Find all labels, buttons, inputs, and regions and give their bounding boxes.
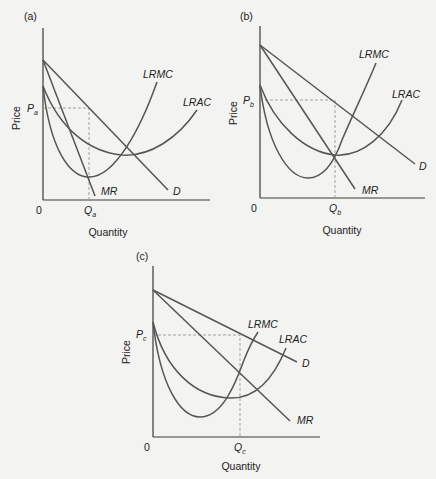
panel-c-x-axis-label: Quantity: [221, 460, 261, 472]
panel-c-mr-label: MR: [297, 414, 314, 426]
panel-a-label: (a): [24, 10, 37, 22]
panel-b-price-label: Pb: [243, 94, 254, 108]
panel-b-quantity-label: Qb: [329, 202, 341, 216]
panel-c: (c) Price 0 Quantity LRMC LRAC MR D Pc Q…: [120, 250, 320, 472]
panel-a-x-axis-label: Quantity: [88, 226, 128, 238]
panel-b-equilibrium-guides: [260, 100, 335, 198]
panel-a-lrmc-curve: [43, 82, 157, 177]
panel-a-lrac-label: LRAC: [183, 96, 211, 108]
panel-c-d-label: D: [302, 357, 310, 369]
panel-a-mr-label: MR: [101, 185, 118, 197]
panel-b-lrmc-label: LRMC: [359, 48, 389, 60]
panel-c-lrac-curve: [153, 322, 286, 398]
panel-c-quantity-label: Qc: [234, 441, 246, 455]
panel-c-lrmc-curve: [153, 322, 258, 417]
panel-b-d-label: D: [419, 160, 427, 172]
panel-b-demand-curve: [260, 45, 415, 164]
panel-b-x-axis-label: Quantity: [322, 224, 362, 236]
panel-a-y-axis-label: Price: [10, 106, 22, 130]
panel-b: (b) Price 0 Quantity LRMC LRAC MR D Pb Q…: [227, 10, 427, 236]
panel-a-lrmc-label: LRMC: [143, 68, 173, 80]
panel-c-price-label: Pc: [136, 328, 147, 342]
panel-a-quantity-label: Qa: [84, 204, 96, 218]
panel-c-origin: 0: [144, 441, 150, 453]
panel-c-equilibrium-guides: [153, 335, 240, 437]
panel-b-y-axis-label: Price: [227, 101, 239, 125]
panel-a: (a) Price 0 Quantity LRMC LRAC MR D Pa Q…: [10, 10, 211, 238]
panel-a-d-label: D: [173, 185, 181, 197]
panel-c-mr-curve: [153, 290, 290, 421]
panel-c-lrac-label: LRAC: [279, 333, 307, 345]
panel-c-lrmc-label: LRMC: [248, 318, 278, 330]
panel-b-label: (b): [240, 10, 253, 22]
panel-b-mr-label: MR: [362, 184, 379, 196]
panel-b-origin: 0: [251, 202, 257, 214]
panel-c-y-axis-label: Price: [120, 340, 132, 364]
monopoly-cost-diagrams: (a) Price 0 Quantity LRMC LRAC MR D Pa Q…: [0, 0, 436, 479]
panel-b-mr-curve: [260, 45, 355, 189]
panel-b-lrac-curve: [260, 85, 402, 155]
panel-a-price-label: Pa: [27, 102, 38, 116]
panel-c-label: (c): [136, 250, 148, 262]
panel-a-origin: 0: [36, 204, 42, 216]
panel-b-lrac-label: LRAC: [392, 88, 420, 100]
